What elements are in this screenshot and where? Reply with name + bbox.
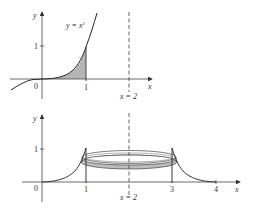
x-axis-label: x [234, 185, 239, 194]
right-curve [172, 148, 216, 182]
x-tick-1-label: 1 [84, 83, 88, 92]
curve-label: y = x3 [65, 21, 86, 30]
x-tick-3-label: 3 [170, 185, 174, 194]
line-label: x = 2 [119, 193, 137, 202]
origin-label: 0 [34, 82, 38, 91]
line-label: x = 2 [119, 92, 137, 101]
origin-label: 0 [34, 184, 38, 193]
volume-of-revolution-diagram: y y = x3 1 0 1 x x = 2 y 1 [0, 0, 255, 213]
left-curve [42, 148, 86, 182]
x-axis-label: x [147, 82, 152, 91]
y-tick-1-label: 1 [34, 145, 38, 154]
x-tick-1-label: 1 [84, 185, 88, 194]
shaded-region [42, 47, 86, 79]
x-tick-4-label: 4 [214, 185, 218, 194]
bottom-graph: y 1 0 1 3 4 x x = 2 [22, 113, 240, 202]
y-axis-label: y [32, 114, 37, 123]
y-axis-label: y [32, 11, 37, 20]
top-graph: y y = x3 1 0 1 x x = 2 [10, 11, 152, 101]
y-tick-1-label: 1 [34, 42, 38, 51]
